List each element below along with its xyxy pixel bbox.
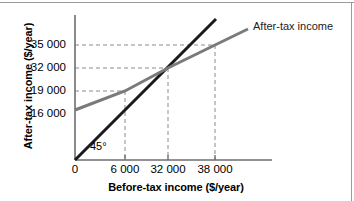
chart-figure: After-tax income ($/year) Before-tax inc… bbox=[0, 0, 354, 201]
y-tick-label-32000: 32 000 bbox=[8, 61, 66, 73]
y-tick-label-35000: 35 000 bbox=[8, 38, 66, 50]
x-tick-label-38000: 38 000 bbox=[185, 163, 245, 175]
reference-45-degree-line bbox=[75, 19, 216, 160]
angle-annotation-45-degrees: 45° bbox=[90, 140, 107, 152]
after-tax-income-line bbox=[75, 29, 248, 110]
y-tick-label-19000: 19 000 bbox=[8, 84, 66, 96]
y-tick-label-16000: 16 000 bbox=[8, 107, 66, 119]
series-label-after-tax-income: After-tax income bbox=[253, 20, 333, 32]
axis-lines bbox=[75, 15, 272, 160]
x-axis-title: Before-tax income ($/year) bbox=[60, 181, 292, 193]
